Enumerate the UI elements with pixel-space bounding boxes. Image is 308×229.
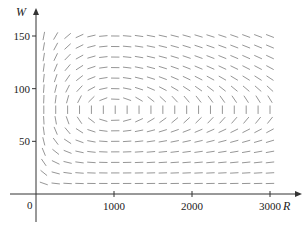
slope-segment: [268, 96, 272, 103]
slope-segment: [195, 86, 202, 91]
slope-segment: [54, 64, 57, 72]
slope-segment: [183, 86, 190, 91]
slope-segment: [196, 96, 201, 103]
slope-segment: [220, 117, 226, 123]
slope-segment: [135, 46, 143, 47]
slope-segment: [230, 151, 238, 152]
slope-segment: [54, 32, 58, 39]
slope-segment: [40, 182, 48, 185]
slope-segment: [147, 87, 155, 90]
slope-segment: [123, 98, 131, 101]
slope-segment: [43, 127, 44, 135]
slope-segment: [207, 66, 215, 69]
slope-segment: [267, 117, 272, 124]
direction-field-chart: 100020003000 50100150 R W 0: [0, 0, 308, 229]
slope-segment: [242, 45, 250, 48]
slope-segment: [195, 76, 202, 80]
y-tick-label: 50: [19, 135, 31, 147]
slope-segment: [266, 66, 273, 70]
slope-segment: [195, 35, 203, 37]
slope-segment: [41, 170, 48, 175]
slope-segment: [43, 63, 44, 71]
slope-segment: [159, 151, 167, 152]
slope-segment: [230, 35, 238, 38]
slope-segment: [195, 66, 203, 69]
slope-segment: [135, 56, 143, 57]
slope-segment: [88, 118, 95, 123]
slope-segment: [218, 45, 226, 48]
slope-segment: [242, 162, 250, 163]
slope-segment: [183, 76, 191, 80]
slope-segment: [266, 162, 274, 163]
slope-segment: [76, 140, 84, 143]
slope-segment: [207, 76, 214, 80]
slope-segment: [65, 64, 70, 70]
slope-segment: [242, 151, 250, 152]
slope-segment: [135, 119, 143, 123]
slope-segment: [171, 56, 179, 58]
slope-segment: [159, 77, 167, 80]
slope-segment: [43, 74, 44, 82]
slope-segment: [244, 96, 249, 103]
slope-segment: [147, 152, 155, 153]
slope-segment: [231, 76, 238, 80]
slope-segment: [266, 129, 273, 133]
slope-segment: [255, 86, 261, 92]
origin-label: 0: [27, 199, 33, 211]
slope-segment: [65, 128, 70, 134]
x-tick-label: 1000: [103, 200, 126, 212]
slope-segment: [43, 32, 45, 40]
slope-segment: [135, 130, 143, 132]
x-axis-label: R: [282, 199, 291, 213]
slope-segment: [77, 117, 82, 124]
slope-segment: [75, 173, 83, 174]
slope-segment: [254, 35, 262, 38]
slope-segment: [99, 67, 107, 68]
slope-segment: [65, 54, 71, 60]
slope-segment: [230, 55, 238, 58]
slope-segment: [171, 45, 179, 47]
slope-segment: [87, 66, 95, 69]
slope-segment: [231, 129, 239, 133]
slope-segment: [195, 56, 203, 59]
slope-segment: [99, 77, 107, 78]
slope-segment: [55, 95, 56, 103]
slope-segment: [159, 130, 167, 133]
x-tick-label: 3000: [259, 200, 282, 212]
slope-segment: [76, 45, 84, 49]
slope-segment: [76, 34, 84, 38]
slope-segment: [123, 141, 131, 142]
slope-segment: [172, 96, 178, 102]
slope-segment: [147, 56, 155, 58]
slope-segment: [65, 75, 70, 82]
slope-segment: [43, 53, 44, 61]
slope-segment: [207, 129, 215, 132]
slope-segment: [147, 130, 155, 132]
slope-segment: [195, 129, 203, 132]
slope-segment: [220, 96, 225, 103]
slope-segment: [99, 130, 107, 131]
slope-segment: [99, 36, 107, 37]
slope-segment: [172, 118, 178, 123]
slope-segment: [66, 116, 69, 124]
slope-segment: [76, 129, 83, 134]
slope-segment: [99, 119, 107, 121]
slope-segment: [77, 86, 83, 92]
slope-segment: [219, 129, 227, 133]
slope-segment: [184, 117, 190, 123]
slope-segment: [230, 140, 238, 142]
slope-segment: [123, 88, 131, 90]
slope-segment: [208, 117, 214, 123]
slope-segment: [135, 141, 143, 142]
slope-segment: [123, 130, 131, 131]
slope-segment: [88, 96, 94, 102]
slope-segment: [88, 77, 96, 80]
slope-segment: [41, 159, 46, 166]
slope-segment: [64, 33, 70, 38]
slope-segment: [159, 162, 167, 163]
slope-segment: [242, 140, 250, 142]
slope-segment: [266, 34, 274, 37]
slope-segment: [171, 87, 178, 91]
slope-segment: [207, 45, 215, 48]
slope-segment: [52, 172, 60, 174]
